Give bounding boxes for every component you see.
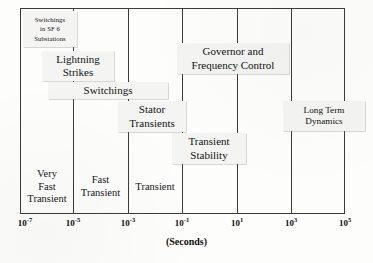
axis-tick: 10-5 bbox=[66, 218, 80, 228]
box-lightning-strikes: Lightning Strikes bbox=[42, 51, 114, 81]
box-stator-transients: Stator Transients bbox=[118, 101, 186, 132]
era-label-transient: Transient bbox=[129, 181, 181, 194]
era-label-very-fast-transient: Very Fast Transient bbox=[21, 168, 73, 206]
box-long-term-dynamics: Long Term Dynamics bbox=[283, 101, 365, 131]
box-switchings: Switchings bbox=[48, 82, 168, 99]
axis-title: (Seconds) bbox=[0, 236, 373, 247]
axis-tick: 101 bbox=[231, 218, 243, 228]
gridline bbox=[237, 8, 238, 214]
axis-tick-exponent: -5 bbox=[75, 216, 80, 223]
axis-tick-exponent: -7 bbox=[27, 216, 32, 223]
axis-tick: 10-1 bbox=[175, 218, 189, 228]
axis-tick: 10-7 bbox=[18, 218, 32, 228]
axis-tick-exponent: 5 bbox=[348, 216, 351, 223]
axis-tick-exponent: -3 bbox=[130, 216, 135, 223]
era-label-fast-transient: Fast Transient bbox=[74, 174, 127, 199]
power-system-timescale-diagram: Very Fast Transient Fast Transient Trans… bbox=[0, 0, 373, 263]
axis-tick-exponent: 3 bbox=[294, 216, 297, 223]
axis-tick: 105 bbox=[339, 218, 351, 228]
axis-tick: 10-3 bbox=[121, 218, 135, 228]
axis-tick: 103 bbox=[285, 218, 297, 228]
axis-tick-exponent: 1 bbox=[240, 216, 243, 223]
axis-tick-exponent: -1 bbox=[184, 216, 189, 223]
box-governor-and-frequency-control: Governor and Frequency Control bbox=[177, 43, 289, 74]
box-switchings-in-sf6-substations: Switchings in SF 6 Substations bbox=[23, 11, 77, 47]
box-transient-stability: Transient Stability bbox=[172, 133, 246, 164]
